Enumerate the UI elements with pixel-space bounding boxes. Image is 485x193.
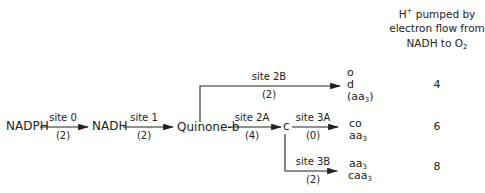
terminal-2B-d: d <box>347 79 354 90</box>
terminal-3A-co: co <box>349 118 362 129</box>
terminal-2B-aa3: (aa3) <box>347 91 374 104</box>
site0-label: site 0 <box>49 113 77 123</box>
header-line-2: electron flow from <box>389 23 485 34</box>
node-c: c <box>283 120 290 132</box>
node-nadph: NADPH <box>6 120 49 132</box>
protons-branch-2B: 4 <box>434 79 441 90</box>
node-quinone-b: Quinone-b <box>177 121 239 133</box>
node-nadh: NADH <box>92 120 127 132</box>
site2A-label: site 2A <box>235 113 269 123</box>
site2A-value: (4) <box>245 131 259 141</box>
site1-value: (2) <box>137 131 151 141</box>
protons-branch-3A: 6 <box>434 121 441 132</box>
site3A-label: site 3A <box>296 113 330 123</box>
site2B-label: site 2B <box>252 72 286 82</box>
protons-branch-3B: 8 <box>434 161 441 172</box>
header-line-1: H+ pumped by <box>399 8 476 20</box>
site1-label: site 1 <box>130 113 158 123</box>
terminal-3A-aa3: aa3 <box>349 130 367 143</box>
site3B-label: site 3B <box>296 157 330 167</box>
site3B-value: (2) <box>306 175 320 185</box>
terminal-2B-o: o <box>347 67 354 78</box>
site0-value: (2) <box>56 131 70 141</box>
header-line-3: NADH to O2 <box>407 38 468 51</box>
site2B-value: (2) <box>262 90 276 100</box>
site3A-value: (0) <box>306 131 320 141</box>
terminal-3B-caa3: caa3 <box>348 170 372 183</box>
